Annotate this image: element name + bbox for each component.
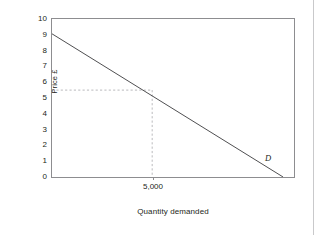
- x-tick-label: 5,000: [143, 183, 163, 191]
- y-tick-label: 10: [38, 15, 47, 23]
- plot-canvas: [52, 19, 294, 177]
- y-tick-label: 0: [43, 173, 47, 181]
- x-tick-mark: [153, 177, 154, 180]
- y-tick-label: 8: [43, 47, 47, 55]
- page-edge-rule: [313, 0, 314, 235]
- demand-curve-figure: 10 9 8 7 6 5 4 3 2 1 0 5,000 Price £ D Q…: [0, 0, 324, 235]
- y-tick-label: 7: [43, 62, 47, 70]
- x-axis-title: Quantity demanded: [51, 207, 295, 216]
- demand-curve: [52, 34, 283, 177]
- y-tick-label: 6: [43, 78, 47, 86]
- demand-curve-label: D: [265, 154, 271, 163]
- y-tick-label: 9: [43, 31, 47, 39]
- y-tick-label: 4: [43, 110, 47, 118]
- y-tick-label: 2: [43, 141, 47, 149]
- y-tick-label: 5: [43, 94, 47, 102]
- y-axis-title: Price £: [50, 47, 59, 117]
- y-tick-label: 3: [43, 126, 47, 134]
- plot-area: 10 9 8 7 6 5 4 3 2 1 0 5,000 Price £ D: [51, 18, 295, 178]
- y-tick-label: 1: [43, 157, 47, 165]
